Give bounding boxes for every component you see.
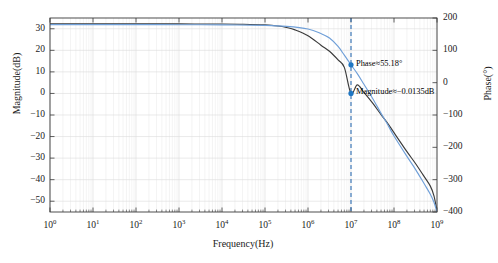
x-axis-label: Frequency(Hz): [148, 238, 338, 249]
x-tick-label: 101: [78, 218, 108, 230]
y-axis-label-right: Phase(°): [482, 24, 493, 144]
x-tick-label: 102: [121, 218, 151, 230]
magnitude-annotation-marker[interactable]: [348, 91, 353, 96]
y-tick-label-left: 10: [11, 66, 45, 76]
x-tick-label: 106: [293, 218, 323, 230]
x-tick-label: 104: [207, 218, 237, 230]
x-tick-label: 108: [379, 218, 409, 230]
y-tick-label-left: −10: [11, 109, 45, 119]
y-axis-label-left: Magnitude(dB): [11, 24, 22, 144]
x-tick-label: 100: [35, 218, 65, 230]
x-tick-label: 105: [250, 218, 280, 230]
y-tick-label-left: −20: [11, 131, 45, 141]
y-tick-label-left: 20: [11, 44, 45, 54]
y-tick-label-left: −50: [11, 195, 45, 205]
bode-plot-figure: Magnitude(dB) Phase(°) Frequency(Hz) 100…: [0, 0, 498, 263]
y-tick-label-left: 0: [11, 87, 45, 97]
x-tick-label: 107: [336, 218, 366, 230]
y-tick-label-right: 100: [443, 44, 483, 54]
y-tick-label-right: 200: [443, 12, 483, 22]
phase-annotation: Phase≈55.18°: [356, 59, 402, 68]
magnitude-annotation: Magnitude≈−0.0135dB: [356, 87, 434, 96]
x-tick-label: 103: [164, 218, 194, 230]
phase-annotation-marker[interactable]: [348, 62, 353, 67]
x-tick-label: 109: [422, 218, 452, 230]
y-tick-label-right: 0: [443, 77, 483, 87]
y-tick-label-right: −200: [443, 141, 483, 151]
y-tick-label-right: −400: [443, 206, 483, 216]
y-tick-label-left: −40: [11, 174, 45, 184]
y-tick-label-left: −30: [11, 152, 45, 162]
y-tick-label-right: −100: [443, 109, 483, 119]
y-tick-label-right: −300: [443, 174, 483, 184]
y-tick-label-left: 30: [11, 23, 45, 33]
